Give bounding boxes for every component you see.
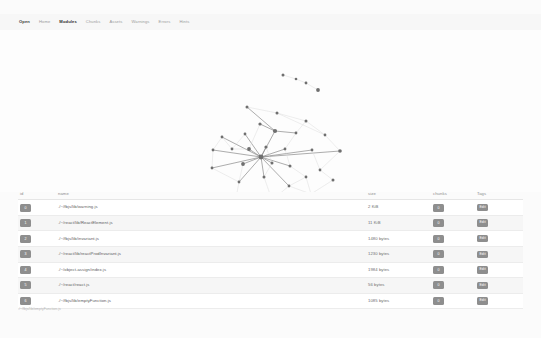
graph-edge [283, 75, 296, 79]
graph-edge [290, 166, 306, 177]
graph-edge [249, 124, 260, 149]
graph-node[interactable] [324, 134, 327, 137]
column-header-chunks[interactable]: chunks [431, 192, 475, 200]
graph-edge [306, 177, 311, 192]
cell-module-name[interactable]: ./~/react/lib/reactProdInvariant.js [56, 246, 366, 262]
cell-module-name[interactable]: ./~/fbjs/lib/warning.js [56, 200, 366, 216]
table-row[interactable]: 4./~/object-assign/index.js1984 bytes0Ed… [18, 262, 523, 278]
edit-tags-button[interactable]: Edit [477, 282, 488, 290]
cell-size: 1085 bytes [366, 293, 431, 309]
graph-node[interactable] [264, 145, 267, 148]
cell-module-name[interactable]: ./~/react/lib/ReactElement.js [56, 215, 366, 231]
graph-node[interactable] [258, 122, 261, 125]
edit-tags-button[interactable]: Edit [477, 219, 488, 227]
graph-node[interactable] [273, 129, 277, 133]
graph-edge [311, 180, 333, 192]
graph-edge [232, 134, 245, 149]
main-navbar: Open Home Modules Chunks Assets Warnings… [0, 14, 541, 31]
nav-item-chunks[interactable]: Chunks [86, 20, 101, 24]
nav-item-warnings[interactable]: Warnings [131, 20, 149, 24]
graph-node[interactable] [295, 78, 298, 81]
graph-edge [306, 121, 325, 135]
nav-item-hints[interactable]: Hints [179, 20, 189, 24]
graph-node[interactable] [311, 149, 314, 152]
graph-node[interactable] [247, 147, 251, 151]
graph-edges [206, 75, 340, 192]
cell-module-name[interactable]: ./~/object-assign/index.js [56, 262, 366, 278]
cell-chunks: 0 [431, 200, 475, 216]
table-row[interactable]: 1./~/react/lib/ReactElement.js11 KiB0Edi… [18, 215, 523, 231]
graph-node[interactable] [263, 176, 266, 179]
module-id-badge: 1 [20, 219, 31, 227]
graph-node[interactable] [244, 133, 247, 136]
graph-node[interactable] [221, 136, 224, 139]
graph-node[interactable] [212, 149, 215, 152]
graph-node[interactable] [305, 82, 308, 85]
table-row[interactable]: 5./~/react/react.js56 bytes0Edit [18, 278, 523, 294]
cell-chunks: 0 [431, 262, 475, 278]
module-id-badge: 0 [20, 204, 31, 212]
table-row[interactable]: 0./~/fbjs/lib/warning.js2 KiB0Edit [18, 200, 523, 216]
cell-tags: Edit [475, 215, 523, 231]
column-header-id[interactable]: id [18, 192, 56, 200]
edit-tags-button[interactable]: Edit [477, 266, 488, 274]
graph-node[interactable] [211, 167, 214, 170]
column-header-name[interactable]: name [56, 192, 366, 200]
table-row[interactable]: 2./~/fbjs/lib/invariant.js1480 bytes0Edi… [18, 231, 523, 247]
chunk-id-badge[interactable]: 0 [433, 250, 444, 258]
edit-tags-button[interactable]: Edit [477, 235, 488, 243]
modules-table-container[interactable]: id name size chunks Tags 0./~/fbjs/lib/w… [18, 192, 523, 320]
graph-edge [239, 157, 261, 182]
graph-node[interactable] [231, 148, 234, 151]
graph-node[interactable] [284, 148, 287, 151]
graph-canvas[interactable] [0, 30, 541, 192]
graph-edge [285, 149, 290, 166]
graph-node[interactable] [289, 165, 292, 168]
column-header-tags[interactable]: Tags [475, 192, 523, 200]
graph-node[interactable] [305, 120, 308, 123]
cell-module-name[interactable]: ./~/react/react.js [56, 278, 366, 294]
cell-module-name[interactable]: ./~/fbjs/lib/invariant.js [56, 231, 366, 247]
graph-node[interactable] [246, 106, 249, 109]
chunk-id-badge[interactable]: 0 [433, 204, 444, 212]
graph-node[interactable] [271, 162, 274, 165]
cell-chunks: 0 [431, 278, 475, 294]
graph-node[interactable] [276, 112, 279, 115]
edit-tags-button[interactable]: Edit [477, 251, 488, 259]
graph-node[interactable] [332, 179, 335, 182]
nav-item-errors[interactable]: Errors [159, 20, 171, 24]
graph-node[interactable] [259, 155, 264, 160]
nav-item-modules[interactable]: Modules [59, 20, 76, 24]
cell-id: 0 [18, 200, 56, 216]
chunk-id-badge[interactable]: 0 [433, 281, 444, 289]
graph-node[interactable] [288, 185, 291, 188]
nav-item-open[interactable]: Open [19, 20, 30, 24]
graph-edge [260, 124, 275, 131]
graph-node[interactable] [241, 162, 245, 166]
graph-nodes[interactable] [205, 74, 342, 193]
navbar-items: Open Home Modules Chunks Assets Warnings… [0, 20, 189, 24]
graph-node[interactable] [282, 74, 285, 77]
graph-node[interactable] [238, 181, 241, 184]
graph-node[interactable] [316, 88, 320, 92]
chunk-id-badge[interactable]: 0 [433, 297, 444, 305]
edit-tags-button[interactable]: Edit [477, 204, 488, 212]
column-header-size[interactable]: size [366, 192, 431, 200]
edit-tags-button[interactable]: Edit [477, 297, 488, 305]
graph-edge [264, 163, 272, 177]
nav-item-home[interactable]: Home [39, 20, 50, 24]
chunk-id-badge[interactable]: 0 [433, 235, 444, 243]
module-id-badge: 5 [20, 281, 31, 289]
chunk-id-badge[interactable]: 0 [433, 219, 444, 227]
graph-node[interactable] [305, 176, 308, 179]
graph-edge [212, 168, 239, 182]
table-row[interactable]: 3./~/react/lib/reactProdInvariant.js1230… [18, 246, 523, 262]
cell-id: 2 [18, 231, 56, 247]
nav-item-assets[interactable]: Assets [109, 20, 122, 24]
webpack-analyse-page: Open Home Modules Chunks Assets Warnings… [0, 0, 541, 338]
module-dependency-graph[interactable] [0, 30, 541, 192]
graph-node[interactable] [295, 132, 298, 135]
graph-node[interactable] [319, 169, 322, 172]
chunk-id-badge[interactable]: 0 [433, 266, 444, 274]
graph-node[interactable] [338, 149, 342, 153]
